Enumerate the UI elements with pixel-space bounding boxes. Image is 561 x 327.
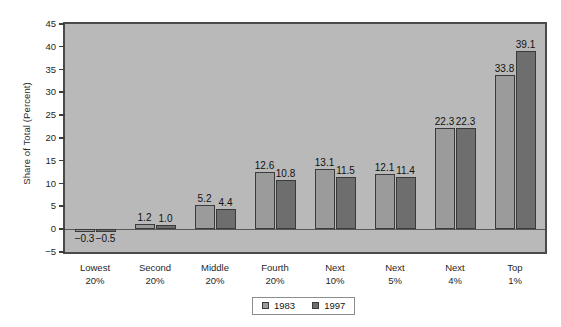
- x-axis-label-line: 20%: [65, 275, 125, 288]
- bar: [315, 169, 335, 229]
- y-tick-label: 40: [45, 40, 56, 53]
- x-axis-label: Next4%: [425, 262, 485, 287]
- y-tick-mark: [59, 69, 65, 71]
- y-tick-label: 0: [51, 222, 56, 235]
- y-tick-mark: [59, 228, 65, 230]
- legend-swatch-icon: [262, 302, 269, 309]
- x-axis-label: Lowest20%: [65, 262, 125, 287]
- bar-value-label: 22.3: [449, 116, 483, 127]
- x-axis-label-line: 10%: [305, 275, 365, 288]
- zero-baseline: [65, 229, 545, 230]
- y-tick-label: 35: [45, 63, 56, 76]
- y-tick-label: 20: [45, 131, 56, 144]
- bar: [336, 177, 356, 229]
- bar: [456, 128, 476, 230]
- x-axis-label: Fourth20%: [245, 262, 305, 287]
- x-axis-label: Next10%: [305, 262, 365, 287]
- bar: [96, 229, 116, 232]
- bar: [435, 128, 455, 230]
- plot-area: 454035302520151050−5 −0.31.25.212.613.11…: [63, 22, 547, 254]
- legend-item[interactable]: 1997: [312, 300, 345, 311]
- bar: [135, 224, 155, 229]
- y-tick-label: 25: [45, 108, 56, 121]
- chart-legend: 19831997: [252, 297, 355, 315]
- x-axis-label-line: 5%: [365, 275, 425, 288]
- bar-value-label: 39.1: [509, 39, 543, 50]
- x-axis-label-line: Next: [365, 262, 425, 275]
- x-axis-label-line: Top: [485, 262, 545, 275]
- x-axis-label-line: Fourth: [245, 262, 305, 275]
- x-axis-label-line: Lowest: [65, 262, 125, 275]
- bar: [375, 174, 395, 229]
- y-tick-mark: [59, 114, 65, 116]
- bar-value-label: −0.5: [92, 233, 120, 244]
- x-axis-label-line: Second: [125, 262, 185, 275]
- bar-value-label: 11.5: [329, 165, 363, 176]
- bar: [255, 172, 275, 229]
- bar-value-label: 4.4: [209, 197, 243, 208]
- y-tick-label: 5: [51, 199, 56, 212]
- y-tick-mark: [59, 91, 65, 93]
- y-tick-label: 10: [45, 177, 56, 190]
- y-tick-mark: [59, 205, 65, 207]
- bar: [396, 177, 416, 229]
- x-axis-label-line: 4%: [425, 275, 485, 288]
- x-axis-label: Second20%: [125, 262, 185, 287]
- x-axis-label-line: Next: [425, 262, 485, 275]
- bar: [516, 51, 536, 229]
- y-tick-label: 15: [45, 154, 56, 167]
- bar: [195, 205, 215, 229]
- x-axis-label-line: 20%: [185, 275, 245, 288]
- legend-label: 1983: [274, 300, 295, 311]
- y-tick-label: −5: [45, 245, 56, 258]
- y-tick-mark: [59, 160, 65, 162]
- x-axis-label: Top1%: [485, 262, 545, 287]
- x-axis-label-line: 1%: [485, 275, 545, 288]
- y-tick-mark: [59, 251, 65, 253]
- x-axis-label-line: 20%: [245, 275, 305, 288]
- legend-swatch-icon: [312, 302, 319, 309]
- y-tick-mark: [59, 46, 65, 48]
- bar: [216, 209, 236, 229]
- y-tick-mark: [59, 23, 65, 25]
- y-tick-label: 45: [45, 17, 56, 30]
- x-axis-label: Middle20%: [185, 262, 245, 287]
- bar-value-label: 11.4: [389, 165, 423, 176]
- bar: [75, 229, 95, 232]
- bar: [495, 75, 515, 229]
- bar-value-label: 10.8: [269, 168, 303, 179]
- y-axis-title: Share of Total (Percent): [21, 34, 32, 234]
- legend-label: 1997: [324, 300, 345, 311]
- x-axis-label-line: 20%: [125, 275, 185, 288]
- x-axis-label: Next5%: [365, 262, 425, 287]
- legend-item[interactable]: 1983: [262, 300, 295, 311]
- x-axis-label-line: Middle: [185, 262, 245, 275]
- y-tick-mark: [59, 183, 65, 185]
- bar: [156, 225, 176, 230]
- bar: [276, 180, 296, 229]
- plot-inner: 454035302520151050−5 −0.31.25.212.613.11…: [65, 24, 545, 252]
- y-tick-mark: [59, 137, 65, 139]
- x-axis-label-line: Next: [305, 262, 365, 275]
- y-tick-label: 30: [45, 85, 56, 98]
- bar-value-label: 1.0: [149, 213, 183, 224]
- bar-chart: Share of Total (Percent) 454035302520151…: [0, 0, 561, 327]
